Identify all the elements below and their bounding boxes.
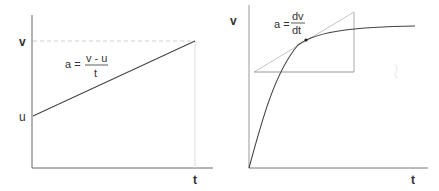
right-tangent-point: [304, 38, 307, 41]
right-formula-denominator: dt: [292, 24, 301, 36]
right-graph: v t a = dv dt: [230, 5, 428, 187]
acceleration-diagrams: v u t a = v - u t v t a = dv dt: [0, 0, 439, 191]
right-t-label: t: [411, 173, 415, 187]
left-u-label: u: [19, 110, 26, 124]
left-formula-denominator: t: [94, 67, 97, 79]
left-velocity-line: [33, 41, 195, 116]
right-v-label: v: [230, 14, 237, 28]
left-graph: v u t a = v - u t: [19, 15, 213, 187]
left-formula-numerator: v - u: [86, 52, 107, 64]
right-velocity-curve: [249, 26, 415, 168]
left-formula-lhs: a =: [65, 58, 81, 70]
right-formula-numerator: dv: [292, 10, 304, 22]
right-formula-lhs: a =: [274, 18, 290, 30]
left-t-label: t: [193, 173, 197, 187]
right-tangent-line: [254, 12, 354, 72]
faint-ghost-mark: [395, 64, 397, 78]
left-v-label: v: [19, 35, 26, 49]
